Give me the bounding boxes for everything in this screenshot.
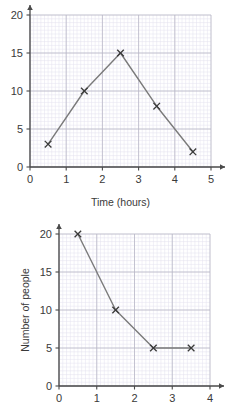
y-axis-tick-label: 15 [11, 47, 23, 59]
y-axis-tick-label: 5 [46, 342, 52, 354]
y-axis-tick-label: 15 [40, 266, 52, 278]
x-axis-tick-label: 3 [169, 392, 175, 404]
x-axis-arrow-icon [219, 383, 224, 389]
grid-group [30, 15, 211, 167]
x-axis-arrow-icon [220, 164, 225, 170]
x-axis-tick-label: 2 [99, 173, 105, 185]
worksheet-page: 01234505101520Time (hours) 0123405101520… [0, 0, 231, 418]
y-axis-tick-label: 0 [46, 380, 52, 392]
y-axis-tick-label: 20 [11, 9, 23, 21]
y-axis-arrow-icon [56, 224, 62, 229]
x-axis-tick-label: 5 [208, 173, 214, 185]
grid-group [59, 234, 210, 386]
y-axis-tick-label: 10 [11, 85, 23, 97]
y-axis-tick-label: 0 [17, 161, 23, 173]
y-axis-tick-label: 5 [17, 123, 23, 135]
chart-bottom-canvas: 0123405101520Number of people [0, 209, 231, 418]
y-axis-title: Number of people [19, 268, 31, 352]
x-axis-tick-label: 2 [131, 392, 137, 404]
y-axis-tick-label: 10 [40, 304, 52, 316]
y-axis-arrow-icon [27, 5, 33, 10]
x-axis-tick-label: 1 [63, 173, 69, 185]
chart-top-canvas: 01234505101520Time (hours) [0, 0, 231, 209]
x-axis-tick-label: 0 [56, 392, 62, 404]
x-axis-tick-label: 4 [172, 173, 178, 185]
chart-number-of-people: 0123405101520Number of people [0, 209, 231, 418]
chart-time-hours: 01234505101520Time (hours) [0, 0, 231, 209]
x-axis-tick-label: 0 [27, 173, 33, 185]
y-axis-tick-label: 20 [40, 228, 52, 240]
x-axis-tick-label: 1 [94, 392, 100, 404]
x-axis-tick-label: 4 [207, 392, 213, 404]
x-axis-tick-label: 3 [136, 173, 142, 185]
x-axis-title: Time (hours) [91, 196, 150, 208]
